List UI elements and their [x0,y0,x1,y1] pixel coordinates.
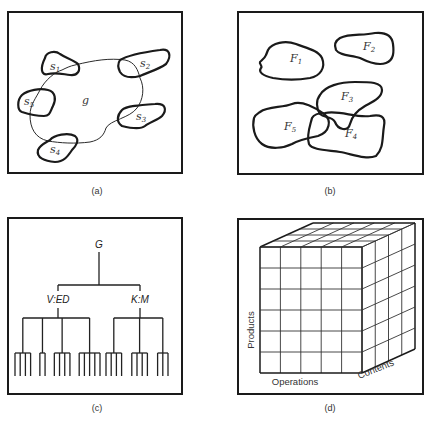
axis-label-products: Products [245,311,256,349]
tree-node-label-v-ed: V:ED [46,294,69,305]
caption-b: (b) [325,186,336,196]
label-s5: s5 [24,95,35,109]
label-s3: s3 [136,110,147,124]
label-f2: F2 [362,40,376,54]
caption-c: (c) [92,403,103,413]
cube-grid [260,223,415,373]
tree-root-label: G [95,239,103,250]
label-s4: s4 [50,143,60,157]
region-f3 [317,82,382,129]
label-f3: F3 [340,90,354,104]
panel-d-frame [238,219,423,394]
label-s2: s2 [140,57,151,71]
caption-a: (a) [92,186,103,196]
figure-canvas: g s1 s2 s3 s4 s5 (a) F1 F2 F3 F4 F5 (b) … [0,0,429,424]
satellite-s1 [42,52,79,75]
panel-b-frame [238,12,423,174]
axis-label-operations: Operations [272,376,319,387]
panel-a-frame [8,12,182,173]
label-s1: s1 [50,60,60,74]
panel-a: g s1 s2 s3 s4 s5 (a) [8,12,182,196]
hierarchy-tree [15,252,168,376]
label-g: g [82,94,89,107]
panel-b: F1 F2 F3 F4 F5 (b) [238,12,423,196]
label-f1: F1 [289,52,302,66]
label-f5: F5 [283,120,297,134]
panel-d: Products Operations Contents (d) [238,219,423,413]
panel-c: G V:ED K:M (c) [8,218,182,413]
tree-node-label-k-m: K:M [131,294,149,305]
caption-d: (d) [325,403,336,413]
label-f4: F4 [344,127,357,141]
